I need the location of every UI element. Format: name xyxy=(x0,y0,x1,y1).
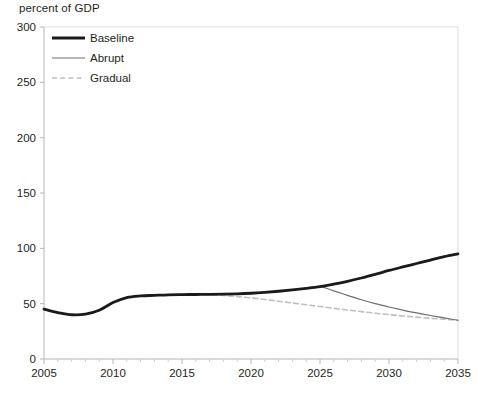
legend-label-gradual: Gradual xyxy=(90,72,131,84)
legend-label-baseline: Baseline xyxy=(90,32,134,44)
y-tick-label: 150 xyxy=(17,187,36,199)
y-tick-label: 200 xyxy=(17,132,36,144)
y-tick-label: 0 xyxy=(30,353,36,365)
x-axis-ticks: 2005201020152020202520302035 xyxy=(31,359,471,379)
chart-legend: BaselineAbruptGradual xyxy=(52,32,134,84)
chart-container: percent of GDP 050100150200250300 200520… xyxy=(0,0,478,401)
x-tick-label: 2035 xyxy=(445,367,471,379)
x-tick-label: 2010 xyxy=(100,367,126,379)
y-tick-label: 300 xyxy=(17,21,36,33)
data-series-layer xyxy=(44,254,458,320)
x-tick-label: 2020 xyxy=(238,367,264,379)
x-tick-label: 2005 xyxy=(31,367,57,379)
x-tick-label: 2025 xyxy=(307,367,333,379)
y-tick-label: 100 xyxy=(17,242,36,254)
series-line-baseline xyxy=(44,254,458,315)
y-axis-ticks: 050100150200250300 xyxy=(17,21,44,365)
legend-label-abrupt: Abrupt xyxy=(90,52,125,64)
x-tick-label: 2030 xyxy=(376,367,402,379)
y-tick-label: 50 xyxy=(23,298,36,310)
line-chart-svg: 050100150200250300 200520102015202020252… xyxy=(0,0,478,401)
x-tick-label: 2015 xyxy=(169,367,195,379)
y-tick-label: 250 xyxy=(17,76,36,88)
